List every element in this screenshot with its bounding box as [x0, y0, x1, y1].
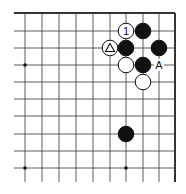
black-stone [151, 40, 167, 56]
white-stone: 1 [118, 23, 134, 39]
grid-lines [14, 13, 175, 182]
move-number: 1 [123, 25, 129, 37]
white-stone [102, 40, 118, 56]
star-point [124, 166, 128, 170]
white-stone [118, 57, 134, 73]
point-label: A [155, 59, 163, 71]
white-stone [135, 74, 151, 90]
black-stone [135, 23, 151, 39]
star-point [23, 63, 27, 67]
black-stone [135, 57, 151, 73]
black-stone [118, 40, 134, 56]
black-stone [118, 126, 134, 142]
star-point [23, 166, 27, 170]
go-board: 1A [0, 0, 186, 194]
